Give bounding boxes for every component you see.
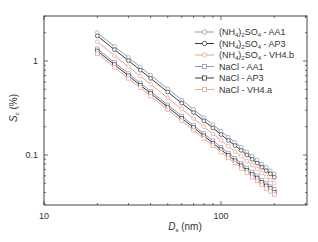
data-point-marker (113, 48, 117, 52)
square-marker-icon (202, 76, 206, 80)
circle-marker-icon (202, 30, 206, 34)
data-point-marker (95, 52, 99, 56)
legend-label: NaCl - VH4.a (219, 85, 272, 95)
data-point-marker (127, 77, 131, 81)
data-point-marker (260, 171, 264, 175)
data-point-marker (192, 111, 196, 115)
legend-label: (NH4)2SO4 - AA1 (219, 27, 286, 38)
data-point-marker (139, 86, 143, 90)
data-point-marker (149, 76, 153, 80)
x-tick-label: 10 (39, 211, 49, 221)
data-point-marker (233, 150, 237, 154)
data-point-marker (219, 133, 223, 137)
data-point-marker (192, 117, 196, 121)
y-tick-label: 0.1 (25, 150, 38, 160)
data-point-marker (202, 125, 206, 129)
data-point-marker (272, 193, 276, 197)
data-point-marker (166, 96, 170, 100)
data-point-marker (227, 156, 231, 160)
data-point-marker (272, 181, 276, 185)
circle-marker-icon (202, 41, 206, 45)
square-marker-icon (202, 64, 206, 68)
data-point-marker (127, 59, 131, 63)
data-point-marker (233, 161, 237, 165)
data-point-marker (239, 154, 243, 158)
legend-item: (NH4)2SO4 - AA1 (195, 27, 286, 38)
data-point-marker (113, 54, 117, 58)
data-point-marker (192, 129, 196, 133)
legend-item: NaCl - AA1 (195, 62, 264, 72)
data-point-marker (149, 82, 153, 86)
data-point-marker (245, 171, 249, 175)
data-point-marker (268, 172, 272, 176)
legend-label: (NH4)2SO4 - AP3 (219, 39, 286, 50)
data-point-marker (180, 107, 184, 111)
data-point-marker (239, 167, 243, 171)
data-point-marker (127, 65, 131, 69)
y-axis-label: Sc (%) (8, 94, 20, 122)
data-point-marker (219, 150, 223, 154)
data-point-marker (268, 178, 272, 182)
legend-label: (NH4)2SO4 - VH4.b (219, 50, 294, 61)
data-point-marker (180, 101, 184, 105)
data-point-marker (95, 34, 99, 38)
axis-labels: Ds (nm)Sc (%) (8, 94, 202, 233)
legend-label: NaCl - AA1 (219, 62, 264, 72)
data-point-marker (211, 126, 215, 130)
legend-item: (NH4)2SO4 - AP3 (195, 39, 286, 50)
data-point-marker (250, 163, 254, 167)
data-point-marker (269, 190, 273, 194)
data-point-marker (260, 183, 264, 187)
data-point-marker (202, 119, 206, 123)
data-point-marker (272, 175, 276, 179)
data-point-marker (264, 169, 268, 173)
legend-label: NaCl - AP3 (219, 73, 264, 83)
data-point-marker (264, 175, 268, 179)
data-point-marker (239, 148, 243, 152)
chart: 101000.11 (NH4)2SO4 - AA1(NH4)2SO4 - AP3… (0, 0, 318, 242)
data-point-marker (260, 165, 264, 169)
data-point-marker (245, 153, 249, 157)
data-point-marker (250, 157, 254, 161)
data-point-marker (233, 144, 237, 148)
data-point-marker (138, 68, 142, 72)
data-point-marker (255, 179, 259, 183)
legend-item: (NH4)2SO4 - VH4.b (195, 50, 294, 61)
data-point-marker (138, 74, 142, 78)
data-point-marker (149, 94, 153, 98)
legend-item: NaCl - VH4.a (195, 85, 272, 95)
x-axis-label: Ds (nm) (168, 221, 202, 233)
legend-item: NaCl - AP3 (195, 73, 264, 83)
data-point-marker (264, 187, 268, 191)
data-point-marker (226, 144, 230, 148)
x-tick-label: 100 (213, 211, 228, 221)
data-point-marker (113, 65, 117, 69)
data-point-marker (166, 90, 170, 94)
data-point-marker (245, 159, 249, 163)
legend: (NH4)2SO4 - AA1(NH4)2SO4 - AP3(NH4)2SO4 … (195, 27, 294, 95)
data-point-marker (211, 132, 215, 136)
data-point-marker (226, 138, 230, 142)
circle-marker-icon (202, 53, 206, 57)
data-point-marker (166, 108, 170, 112)
data-point-marker (202, 137, 206, 141)
y-tick-label: 1 (33, 56, 38, 66)
data-point-marker (180, 119, 184, 123)
data-point-marker (95, 40, 99, 44)
data-point-marker (219, 138, 223, 142)
data-point-marker (255, 167, 259, 171)
data-point-marker (211, 144, 215, 148)
square-marker-icon (202, 87, 206, 91)
data-point-marker (250, 175, 254, 179)
data-point-marker (255, 161, 259, 165)
